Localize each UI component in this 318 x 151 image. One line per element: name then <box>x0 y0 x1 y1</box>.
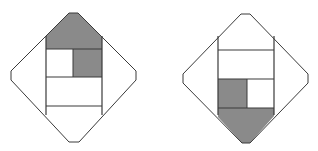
shaded-top-pentagon <box>46 13 102 49</box>
figure-canvas <box>0 0 318 151</box>
shaded-small-square <box>218 79 247 108</box>
diagram-svg <box>0 0 318 151</box>
left-envelope-diagram <box>11 13 136 142</box>
right-envelope-diagram <box>183 14 308 143</box>
shaded-small-square <box>73 49 102 77</box>
